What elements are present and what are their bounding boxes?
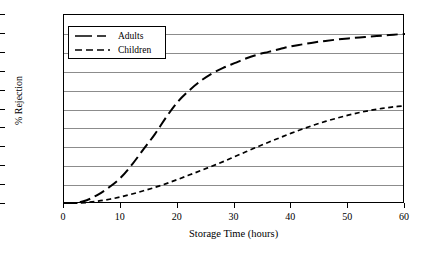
x-tick-mark bbox=[404, 203, 405, 208]
legend-key-children bbox=[73, 45, 113, 55]
x-tick-label: 30 bbox=[214, 211, 254, 222]
x-tick-mark bbox=[234, 203, 235, 208]
legend-item-children: Children bbox=[73, 43, 161, 57]
x-tick-mark bbox=[290, 203, 291, 208]
y-tick-mark bbox=[0, 71, 5, 72]
x-tick-mark bbox=[347, 203, 348, 208]
x-tick-mark bbox=[120, 203, 121, 208]
y-tick-mark bbox=[0, 14, 5, 15]
x-tick-label: 40 bbox=[270, 211, 310, 222]
x-tick-mark bbox=[63, 203, 64, 208]
chart-figure: % Rejection 0102030405060708090100 01020… bbox=[0, 0, 428, 254]
series-line-children bbox=[64, 106, 405, 204]
y-axis: % Rejection 0102030405060708090100 bbox=[0, 0, 63, 217]
x-axis-title: Storage Time (hours) bbox=[63, 228, 404, 239]
y-tick-mark bbox=[0, 203, 5, 204]
y-axis-title: % Rejection bbox=[13, 41, 24, 161]
x-tick-label: 10 bbox=[100, 211, 140, 222]
legend-key-adults bbox=[73, 31, 113, 41]
y-tick-mark bbox=[0, 90, 5, 91]
x-tick-label: 20 bbox=[157, 211, 197, 222]
y-tick-mark bbox=[0, 52, 5, 53]
y-tick-mark bbox=[0, 127, 5, 128]
x-tick-label: 0 bbox=[43, 211, 83, 222]
y-tick-mark bbox=[0, 165, 5, 166]
legend: Adults Children bbox=[68, 26, 166, 59]
y-tick-mark bbox=[0, 109, 5, 110]
y-tick-mark bbox=[0, 33, 5, 34]
x-tick-label: 50 bbox=[327, 211, 367, 222]
legend-label-children: Children bbox=[113, 45, 151, 55]
series-line-adults bbox=[64, 34, 405, 204]
legend-item-adults: Adults bbox=[73, 29, 161, 43]
y-tick-mark bbox=[0, 146, 5, 147]
y-tick-mark bbox=[0, 184, 5, 185]
x-tick-mark bbox=[177, 203, 178, 208]
legend-label-adults: Adults bbox=[113, 31, 143, 41]
x-tick-label: 60 bbox=[384, 211, 424, 222]
